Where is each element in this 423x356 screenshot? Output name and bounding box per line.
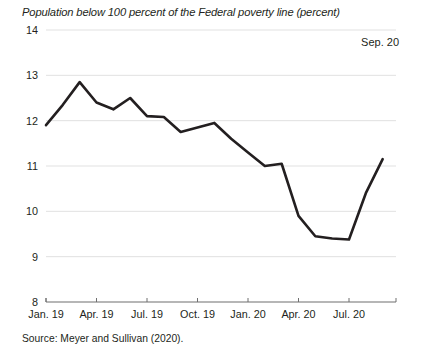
x-axis-tick-label: Apr. 20	[281, 308, 315, 320]
x-axis-tick-label: Apr. 19	[79, 308, 113, 320]
x-axis-tick-label: Jan. 20	[230, 308, 265, 320]
chart-container: Population below 100 percent of the Fede…	[0, 0, 423, 356]
y-axis-tick-label: 9	[12, 251, 38, 263]
y-axis-tick-label: 8	[12, 296, 38, 308]
line-chart-plot	[0, 0, 423, 356]
x-axis-tick-label: Jan. 19	[28, 308, 63, 320]
y-axis-tick-label: 14	[12, 24, 38, 36]
y-axis-tick-label: 10	[12, 205, 38, 217]
x-axis-tick-label: Oct. 19	[180, 308, 215, 320]
y-axis-tick-label: 12	[12, 115, 38, 127]
x-axis-tick-label: Jul. 20	[333, 308, 365, 320]
data-series-line	[46, 82, 383, 239]
source-note: Source: Meyer and Sullivan (2020).	[22, 333, 183, 344]
y-axis-tick-label: 11	[12, 160, 38, 172]
y-axis-tick-label: 13	[12, 69, 38, 81]
x-axis-tick-label: Jul. 19	[131, 308, 163, 320]
